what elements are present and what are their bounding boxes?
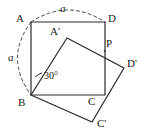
side-length-label-top: a	[60, 3, 66, 14]
square-abcd	[31, 22, 105, 95]
angle-label-30-degrees: 30°	[44, 71, 58, 81]
vertex-label-c-prime: C'	[97, 118, 106, 129]
dashed-arc-top	[31, 10, 105, 22]
dashed-arc-left	[18, 22, 32, 95]
vertex-label-a: A	[16, 13, 24, 24]
vertex-label-c: C	[88, 96, 95, 107]
angle-arc-30-degrees	[35, 73, 42, 77]
side-length-label-left: a	[8, 52, 14, 63]
vertex-label-b: B	[18, 97, 25, 108]
point-label-p: P	[106, 38, 112, 49]
vertex-label-d-prime: D'	[127, 58, 137, 69]
point-p-marker	[104, 50, 106, 52]
vertex-label-a-prime: A'	[50, 26, 60, 37]
geometry-figure: A D B C A' C' D' P 30° a a	[0, 0, 149, 139]
vertex-label-d: D	[108, 13, 116, 24]
